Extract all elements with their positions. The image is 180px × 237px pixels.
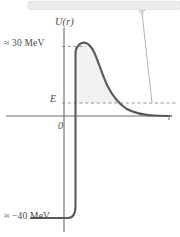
potential-curve — [31, 43, 168, 218]
level-label-E: E — [50, 94, 56, 104]
top-annotation-bar[interactable] — [28, 2, 180, 16]
callout-leader-line — [142, 13, 152, 103]
figure-canvas — [0, 0, 180, 237]
level-label-30mev: ≈ 30 MeV — [4, 39, 45, 49]
tunneling-shaded-region — [76, 42, 122, 103]
level-label-minus40mev: ≈ −40 MeV — [4, 212, 50, 222]
origin-label: 0 — [58, 121, 63, 131]
potential-energy-figure: U(r) ≈ 30 MeV E 0 r ≈ −40 MeV — [0, 0, 180, 237]
x-axis-label: r — [168, 113, 172, 123]
y-axis-label: U(r) — [55, 17, 74, 28]
callout-bar-body — [28, 2, 180, 10]
